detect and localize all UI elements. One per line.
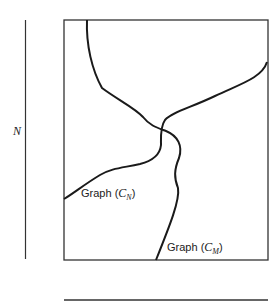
graph-cn-prefix: Graph ( [81,187,118,199]
n-axis-label: N [13,124,21,139]
graph-cm-label: Graph (CM) [167,240,223,256]
plot-frame [64,20,268,260]
graph-cn-suffix: ) [132,187,136,199]
graph-cm-prefix: Graph ( [167,241,204,253]
graph-cm-suffix: ) [219,241,223,253]
graph-cm-subscript: M [212,247,219,256]
graph-cn-label: Graph (CN) [81,186,135,202]
curve-cm [87,20,180,260]
graph-diagram [0,0,280,302]
